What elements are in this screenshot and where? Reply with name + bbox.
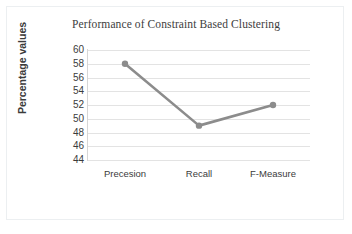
y-axis-tick-label: 58 — [58, 59, 84, 69]
gridline — [88, 78, 310, 79]
gridline — [88, 146, 310, 147]
y-axis-tick-label: 44 — [58, 155, 84, 165]
y-axis-title: Percentage values — [16, 13, 28, 123]
x-axis-tick-label: Recall — [186, 168, 212, 179]
x-axis-tick-label: Precesion — [104, 168, 146, 179]
y-axis-tick-labels: 605856545250484644 — [56, 50, 84, 160]
chart-screenshot: Performance of Constraint Based Clusteri… — [0, 0, 352, 234]
y-axis-tick-label: 56 — [58, 73, 84, 83]
x-axis-tick-label: F-Measure — [250, 168, 296, 179]
gridline — [88, 160, 310, 161]
gridline — [88, 64, 310, 65]
y-axis-tick-label: 54 — [58, 86, 84, 96]
gridline — [88, 50, 310, 51]
y-axis-tick-label: 46 — [58, 141, 84, 151]
gridline — [88, 119, 310, 120]
chart-title: Performance of Constraint Based Clusteri… — [0, 18, 352, 30]
gridline — [88, 91, 310, 92]
plot-area — [88, 50, 310, 160]
gridline — [88, 105, 310, 106]
y-axis-tick-label: 52 — [58, 100, 84, 110]
y-axis-tick-label: 50 — [58, 114, 84, 124]
gridline — [88, 133, 310, 134]
y-axis-tick-label: 48 — [58, 128, 84, 138]
y-axis-tick-label: 60 — [58, 45, 84, 55]
